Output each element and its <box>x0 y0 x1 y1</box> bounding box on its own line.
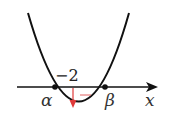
red-arrow-down-icon <box>70 100 77 108</box>
parabola-diagram: −2 α β x <box>0 0 170 138</box>
value-label: −2 <box>55 66 79 85</box>
parabola-curve <box>28 13 129 102</box>
root-label-beta: β <box>104 90 115 110</box>
root-point-alpha <box>52 84 58 90</box>
x-axis-label: x <box>145 90 155 110</box>
root-point-beta <box>102 84 108 90</box>
root-label-alpha: α <box>41 90 53 110</box>
